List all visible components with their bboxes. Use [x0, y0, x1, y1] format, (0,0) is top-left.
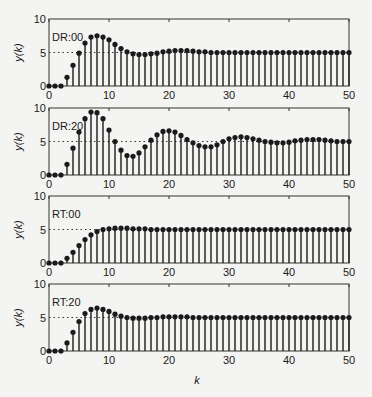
stem-marker: [94, 306, 99, 311]
stem-marker: [220, 139, 225, 144]
stem-marker: [142, 144, 147, 149]
stem-marker: [328, 50, 333, 55]
stem-marker: [106, 226, 111, 231]
x-tick-label: 0: [46, 354, 52, 366]
stem-marker: [268, 50, 273, 55]
stem-marker: [238, 315, 243, 320]
stem-marker: [154, 51, 159, 56]
x-tick-label: 10: [103, 266, 115, 278]
stem-marker: [316, 227, 321, 232]
x-axis-label: k: [194, 374, 200, 386]
stem-marker: [160, 314, 165, 319]
stem-marker: [238, 227, 243, 232]
y-tick-label: 10: [34, 190, 46, 202]
stem-marker: [124, 153, 129, 158]
y-tick-label: 5: [40, 224, 46, 236]
stem-marker: [280, 50, 285, 55]
x-tick-label: 0: [46, 178, 52, 190]
stem-marker: [310, 315, 315, 320]
stem-marker: [76, 319, 81, 324]
stem-marker: [76, 51, 81, 56]
stem-marker: [334, 227, 339, 232]
stem-marker: [112, 139, 117, 144]
stem-marker: [304, 137, 309, 142]
stem-marker: [184, 227, 189, 232]
stem-marker: [148, 227, 153, 232]
stem-marker: [322, 138, 327, 143]
x-tick-label: 50: [343, 354, 355, 366]
stem-marker: [106, 128, 111, 133]
y-axis-label: y(k): [12, 220, 24, 240]
stem-marker: [160, 227, 165, 232]
stem-marker: [268, 227, 273, 232]
stem-marker: [202, 315, 207, 320]
stem-marker: [136, 226, 141, 231]
stem-marker: [262, 315, 267, 320]
stem-marker: [220, 227, 225, 232]
stem-marker: [94, 33, 99, 38]
x-tick-label: 20: [163, 89, 175, 101]
x-tick-label: 30: [223, 89, 235, 101]
stem-marker: [100, 116, 105, 121]
stem-marker: [52, 348, 57, 353]
stem-marker: [112, 42, 117, 47]
stem-marker: [238, 50, 243, 55]
stem-marker: [154, 227, 159, 232]
x-tick-label: 20: [163, 354, 175, 366]
stem-marker: [310, 227, 315, 232]
stem-marker: [148, 315, 153, 320]
stem-marker: [46, 260, 51, 265]
stem-marker: [64, 162, 69, 167]
stem-marker: [322, 227, 327, 232]
stem-marker: [100, 227, 105, 232]
stem-marker: [64, 75, 69, 80]
stem-marker: [226, 227, 231, 232]
stem-marker: [46, 172, 51, 177]
stem-marker: [304, 50, 309, 55]
stem-marker: [190, 315, 195, 320]
stem-marker: [166, 314, 171, 319]
stem-marker: [250, 227, 255, 232]
stem-marker: [136, 316, 141, 321]
stem-marker: [244, 135, 249, 140]
stem-marker: [286, 315, 291, 320]
y-tick-label: 10: [34, 278, 46, 290]
stem-panel-rt-00: 051001020304050RT:00y(k): [12, 190, 355, 278]
stem-marker: [274, 315, 279, 320]
stem-marker: [280, 140, 285, 145]
stem-marker: [304, 227, 309, 232]
stem-marker: [124, 315, 129, 320]
stem-marker: [208, 315, 213, 320]
stem-marker: [310, 50, 315, 55]
stem-marker: [100, 307, 105, 312]
stem-marker: [220, 50, 225, 55]
stem-marker: [178, 133, 183, 138]
stem-marker: [346, 139, 351, 144]
stem-marker: [196, 315, 201, 320]
stem-marker: [292, 315, 297, 320]
y-tick-label: 5: [40, 47, 46, 59]
x-tick-label: 40: [283, 266, 295, 278]
stem-marker: [130, 226, 135, 231]
stem-marker: [136, 52, 141, 57]
stem-marker: [286, 140, 291, 145]
stem-marker: [256, 315, 261, 320]
stem-marker: [214, 315, 219, 320]
stem-marker: [58, 260, 63, 265]
stem-marker: [58, 348, 63, 353]
x-tick-label: 0: [46, 89, 52, 101]
x-tick-label: 30: [223, 266, 235, 278]
stem-marker: [340, 315, 345, 320]
y-tick-label: 5: [40, 136, 46, 148]
x-tick-label: 10: [103, 89, 115, 101]
stem-marker: [274, 140, 279, 145]
stem-marker: [232, 315, 237, 320]
stem-marker: [178, 48, 183, 53]
stem-plot-figure: 051001020304050DR:00y(k)051001020304050D…: [0, 0, 372, 397]
stem-panel-rt-20: 051001020304050RT:20y(k): [12, 278, 355, 366]
stem-marker: [226, 315, 231, 320]
stem-marker: [52, 172, 57, 177]
stem-marker: [232, 135, 237, 140]
stem-marker: [262, 139, 267, 144]
stem-marker: [172, 48, 177, 53]
